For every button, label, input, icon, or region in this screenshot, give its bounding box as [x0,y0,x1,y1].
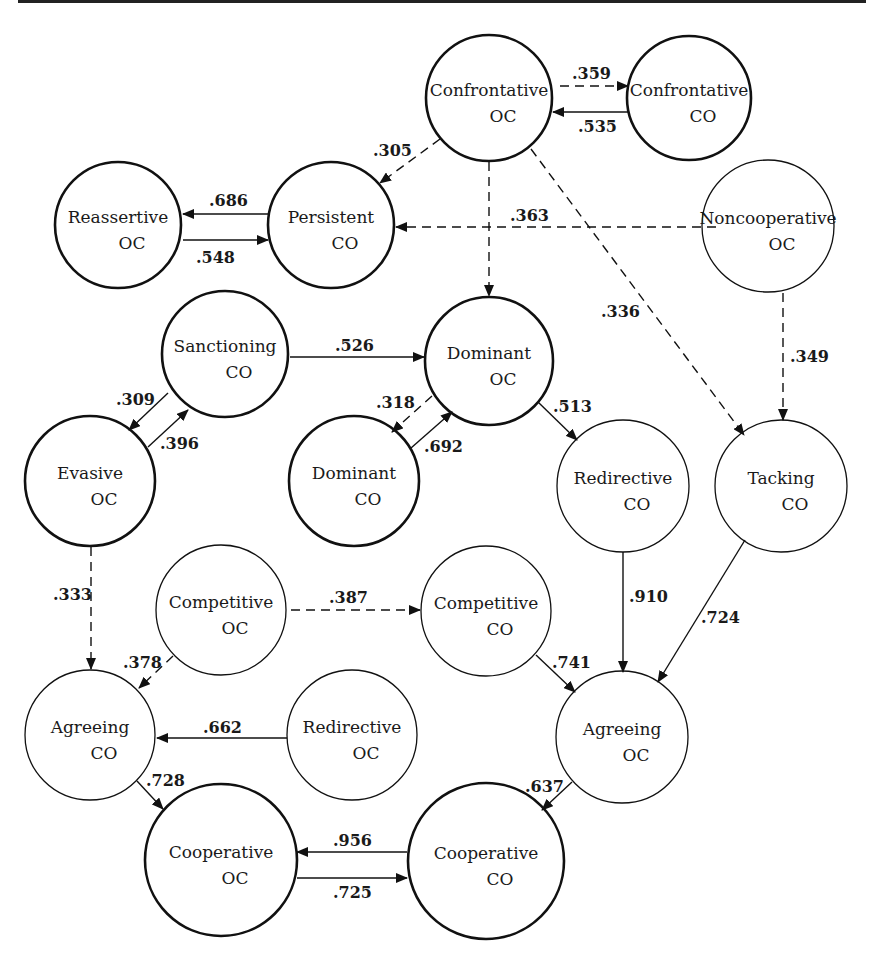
node-label-construct: Redirective [303,717,402,737]
edge-weight-label: .318 [376,393,415,412]
edge-confrontative-oc-to-confrontative-co: .359 [560,64,628,86]
edge-weight-label: .724 [701,608,740,627]
edge-weight-label: .363 [510,206,549,225]
edge-agreeing-co-to-cooperative-oc: .728 [137,771,185,809]
edge-weight-label: .396 [160,434,199,453]
node-label-construct: Competitive [434,593,539,613]
edge-weight-label: .526 [335,336,374,355]
node-evasive-oc: EvasiveOC [25,416,155,546]
edge-weight-label: .956 [333,831,372,850]
edge-competitive-co-to-agreeing-oc: .741 [536,653,591,692]
node-label-type: CO [487,619,514,639]
edge-sanctioning-co-to-dominant-oc: .526 [290,336,424,357]
node-tacking-co: TackingCO [715,420,847,552]
edge-weight-label: .387 [329,588,368,607]
node-label-type: OC [222,868,249,888]
edge-weight-label: .692 [424,437,463,456]
edge-weight-label: .305 [373,141,412,160]
node-sanctioning-co: SanctioningCO [162,291,288,417]
node-label-construct: Persistent [288,207,375,227]
node-redirective-oc: RedirectiveOC [287,670,417,800]
edge-weight-label: .686 [209,191,248,210]
edge-weight-label: .725 [333,883,372,902]
edge-agreeing-oc-to-cooperative-co: .637 [525,777,572,810]
edge-weight-label: .336 [601,302,640,321]
edge-competitive-oc-to-agreeing-co: .378 [123,653,173,688]
node-agreeing-oc: AgreeingOC [556,671,688,803]
node-cooperative-oc: CooperativeOC [145,784,297,936]
edge-weight-label: .309 [116,390,155,409]
node-label-type: OC [769,234,796,254]
edge-weight-label: .637 [525,777,564,796]
node-cooperative-co: CooperativeCO [408,783,564,939]
node-label-construct: Agreeing [50,717,130,737]
node-label-construct: Cooperative [434,843,539,863]
node-confrontative-co: ConfrontativeCO [627,36,751,160]
node-label-construct: Redirective [574,468,673,488]
edge-weight-label: .359 [572,64,611,83]
edge-evasive-oc-to-sanctioning-co: .396 [148,410,199,453]
node-label-construct: Sanctioning [174,336,277,356]
node-label-type: CO [226,362,253,382]
edge-weight-label: .513 [553,397,592,416]
node-label-construct: Evasive [57,463,123,483]
edge-noncooperative-oc-to-persistent-co: .363 [396,206,716,227]
edge-confrontative-oc-to-persistent-co: .305 [373,139,440,183]
node-persistent-co: PersistentCO [268,162,394,288]
node-label-construct: Cooperative [169,842,274,862]
edge-weight-label: .728 [146,771,185,790]
node-label-type: CO [355,489,382,509]
edge-weight-label: .333 [53,585,92,604]
node-label-type: CO [91,743,118,763]
edge-weight-label: .535 [578,117,617,136]
edge-weight-label: .910 [629,587,668,606]
node-competitive-co: CompetitiveCO [421,546,551,676]
node-label-construct: Competitive [169,592,274,612]
node-label-construct: Agreeing [582,719,662,739]
node-label-construct: Dominant [312,463,396,483]
node-label-type: OC [353,743,380,763]
node-agreeing-co: AgreeingCO [25,670,155,800]
node-dominant-oc: DominantOC [425,297,553,425]
edge-evasive-oc-to-agreeing-co: .333 [53,547,92,669]
node-label-type: CO [332,233,359,253]
edge-tacking-co-to-agreeing-oc: .724 [658,540,745,682]
edge-cooperative-co-to-cooperative-oc: .956 [297,831,407,852]
node-confrontative-oc: ConfrontativeOC [426,35,552,161]
node-label-type: CO [690,106,717,126]
node-dominant-co: DominantCO [289,416,419,546]
node-label-type: OC [623,745,650,765]
node-noncooperative-oc: NoncooperativeOC [699,160,836,292]
edge-persistent-co-to-reassertive-oc: .686 [183,191,268,214]
node-label-construct: Confrontative [430,80,549,100]
node-label-construct: Reassertive [68,207,169,227]
node-label-type: OC [222,618,249,638]
node-label-type: OC [490,106,517,126]
edge-weight-label: .662 [203,718,242,737]
node-competitive-oc: CompetitiveOC [156,545,286,675]
node-reassertive-oc: ReassertiveOC [55,162,181,288]
edge-weight-label: .378 [123,653,162,672]
node-label-construct: Tacking [747,468,814,488]
edge-cooperative-oc-to-cooperative-co: .725 [297,878,407,902]
edge-weight-label: .741 [552,653,591,672]
edge-dominant-co-to-dominant-oc: .692 [411,412,463,456]
path-diagram: .359.535.305.686.548.363.336.349.526.309… [0,0,869,956]
edge-weight-label: .349 [790,347,829,366]
edge-weight-label: .548 [196,248,235,267]
edge-dominant-oc-to-dominant-co: .318 [376,393,432,432]
node-label-type: CO [487,869,514,889]
edge-reassertive-oc-to-persistent-co: .548 [183,240,268,267]
nodes-layer: ConfrontativeOCConfrontativeCOReassertiv… [25,35,847,939]
node-label-type: CO [624,494,651,514]
edge-noncooperative-oc-to-tacking-co: .349 [783,293,829,420]
node-label-construct: Noncooperative [699,208,836,228]
edge-redirective-co-to-agreeing-oc: .910 [623,552,668,672]
node-label-construct: Confrontative [630,80,749,100]
node-label-construct: Dominant [447,343,531,363]
node-label-type: OC [91,489,118,509]
node-label-type: OC [490,369,517,389]
edge-competitive-oc-to-competitive-co: .387 [291,588,420,610]
edge-confrontative-co-to-confrontative-oc: .535 [553,112,628,136]
edge-redirective-oc-to-agreeing-co: .662 [157,718,287,738]
